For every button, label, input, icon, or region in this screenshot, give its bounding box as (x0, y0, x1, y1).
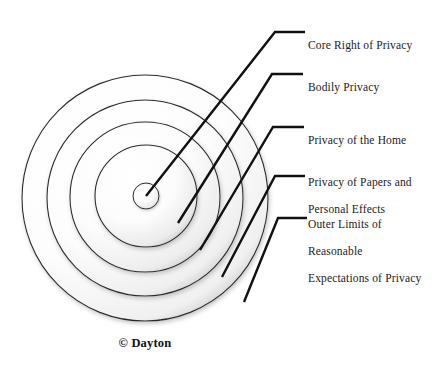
label-privacy-of-the-home: Privacy of the Home (308, 120, 440, 161)
label-line: Reasonable (308, 245, 444, 259)
credit-attribution: © Dayton (0, 336, 290, 351)
label-bodily-privacy: Bodily Privacy (308, 67, 440, 108)
privacy-rings-figure: Core Right of Privacy Bodily Privacy Pri… (0, 0, 446, 369)
label-core-right-of-privacy: Core Right of Privacy (308, 25, 440, 66)
label-outer-limits-of-reasonable-expectations-of-privacy: Outer Limits of Reasonable Expectations … (308, 204, 444, 299)
label-line: Expectations of Privacy (308, 272, 444, 286)
label-line: Privacy of Papers and (308, 176, 440, 190)
label-line: Core Right of Privacy (308, 39, 440, 53)
label-line: Bodily Privacy (308, 81, 440, 95)
label-line: Outer Limits of (308, 218, 444, 232)
label-line: Privacy of the Home (308, 134, 440, 148)
